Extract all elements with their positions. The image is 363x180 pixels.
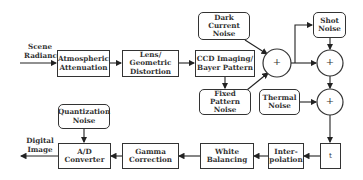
thermal-noise-block: Thermal Noise <box>259 89 300 115</box>
plus-symbol-1: + <box>270 56 284 68</box>
gamma-correction-block: Gamma Correction <box>122 143 179 169</box>
lens-distortion-block: Lens/ Geometric Distortion <box>122 50 179 77</box>
ad-converter-block: A/D Converter <box>58 143 111 169</box>
interpolation-block: Inter- polation <box>268 143 304 169</box>
fixed-pattern-noise-block: Fixed Pattern Noise <box>199 89 251 115</box>
scene-radiance-label: Scene Radiance <box>24 43 56 60</box>
t-block: t <box>320 143 341 169</box>
dark-current-noise-block: Dark Current Noise <box>198 12 250 40</box>
atmospheric-attenuation-block: Atmospheric Attenuation <box>57 50 110 77</box>
white-balancing-block: White Balancing <box>200 143 254 169</box>
shot-noise-block: Shot Noise <box>313 12 346 38</box>
plus-symbol-2: + <box>323 56 337 68</box>
plus-symbol-3: + <box>323 95 337 107</box>
quantization-noise-block: Quantization Noise <box>58 104 110 129</box>
digital-image-label: Digital Image <box>24 137 56 154</box>
ccd-imaging-block: CCD Imaging/ Bayer Pattern <box>195 50 255 77</box>
